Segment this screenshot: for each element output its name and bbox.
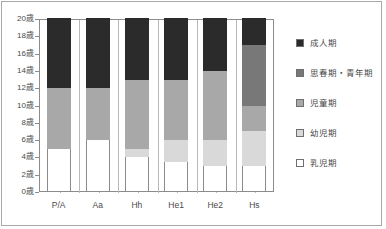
x-axis-tick-label: He2 bbox=[207, 200, 223, 210]
x-axis-tick-label: P/A bbox=[52, 200, 66, 210]
legend-item[interactable]: 児童期 bbox=[296, 96, 382, 110]
legend-swatch-icon bbox=[296, 69, 304, 77]
bar-segment bbox=[125, 148, 149, 158]
bar-segment bbox=[164, 139, 188, 162]
bar-he1 bbox=[164, 19, 188, 192]
bar-segment bbox=[242, 130, 266, 166]
y-axis-tick-label: 14歳 bbox=[0, 67, 34, 75]
legend-item[interactable]: 乳児期 bbox=[296, 156, 382, 170]
bar-segment bbox=[242, 18, 266, 45]
bar-segment bbox=[125, 79, 149, 149]
y-axis-tick-mark bbox=[35, 192, 39, 193]
bar-aa bbox=[86, 19, 110, 192]
bar-segment bbox=[164, 161, 188, 192]
bar-segment bbox=[203, 70, 227, 140]
legend-label: 幼児期 bbox=[310, 128, 337, 138]
legend-swatch-icon bbox=[296, 159, 304, 167]
x-axis-tick-label: Hh bbox=[131, 200, 142, 210]
y-axis-tick-label: 16歳 bbox=[0, 50, 34, 58]
bar-segment bbox=[125, 18, 149, 80]
bar-he2 bbox=[203, 19, 227, 192]
y-axis-tick-label: 18歳 bbox=[0, 32, 34, 40]
y-axis-tick-label: 20歳 bbox=[0, 15, 34, 23]
bar-segment bbox=[86, 18, 110, 88]
bar-segment bbox=[47, 18, 71, 88]
y-axis-tick-label: 2歳 bbox=[0, 171, 34, 179]
chart-legend: 成人期思春期・青年期児童期幼児期乳児期 bbox=[296, 36, 382, 186]
bar-segment bbox=[125, 156, 149, 192]
y-axis-tick-label: 10歳 bbox=[0, 102, 34, 110]
stacked-bar-chart: 0歳2歳4歳6歳8歳10歳12歳14歳16歳18歳20歳 P/AAaHhHe1H… bbox=[0, 0, 386, 229]
legend-item[interactable]: 幼児期 bbox=[296, 126, 382, 140]
y-axis-tick-label: 0歳 bbox=[0, 188, 34, 196]
bar-segment bbox=[203, 165, 227, 192]
y-axis-tick-label: 8歳 bbox=[0, 119, 34, 127]
legend-label: 思春期・青年期 bbox=[310, 68, 373, 78]
legend-label: 児童期 bbox=[310, 98, 337, 108]
bar-segment bbox=[203, 139, 227, 166]
legend-label: 乳児期 bbox=[310, 158, 337, 168]
bar-p-a bbox=[47, 19, 71, 192]
y-axis: 0歳2歳4歳6歳8歳10歳12歳14歳16歳18歳20歳 bbox=[0, 19, 34, 192]
legend-item[interactable]: 成人期 bbox=[296, 36, 382, 50]
x-axis: P/AAaHhHe1He2Hs bbox=[39, 196, 274, 212]
bar-hh bbox=[125, 19, 149, 192]
bar-segment bbox=[47, 148, 71, 192]
legend-swatch-icon bbox=[296, 99, 304, 107]
x-axis-tick-label: Hs bbox=[249, 200, 259, 210]
legend-swatch-icon bbox=[296, 39, 304, 47]
bar-segment bbox=[164, 18, 188, 80]
bar-segment bbox=[242, 105, 266, 132]
bar-segment bbox=[203, 18, 227, 71]
bar-segment bbox=[242, 44, 266, 106]
y-axis-tick-label: 4歳 bbox=[0, 153, 34, 161]
x-axis-tick-label: He1 bbox=[168, 200, 184, 210]
bars-layer bbox=[39, 19, 274, 192]
y-axis-tick-label: 6歳 bbox=[0, 136, 34, 144]
legend-item[interactable]: 思春期・青年期 bbox=[296, 66, 382, 80]
legend-label: 成人期 bbox=[310, 38, 337, 48]
bar-segment bbox=[86, 87, 110, 140]
bar-segment bbox=[242, 165, 266, 192]
bar-hs bbox=[242, 19, 266, 192]
x-axis-tick-label: Aa bbox=[93, 200, 103, 210]
legend-swatch-icon bbox=[296, 129, 304, 137]
y-axis-tick-label: 12歳 bbox=[0, 84, 34, 92]
bar-segment bbox=[47, 87, 71, 149]
bar-segment bbox=[86, 139, 110, 192]
bar-segment bbox=[164, 79, 188, 141]
